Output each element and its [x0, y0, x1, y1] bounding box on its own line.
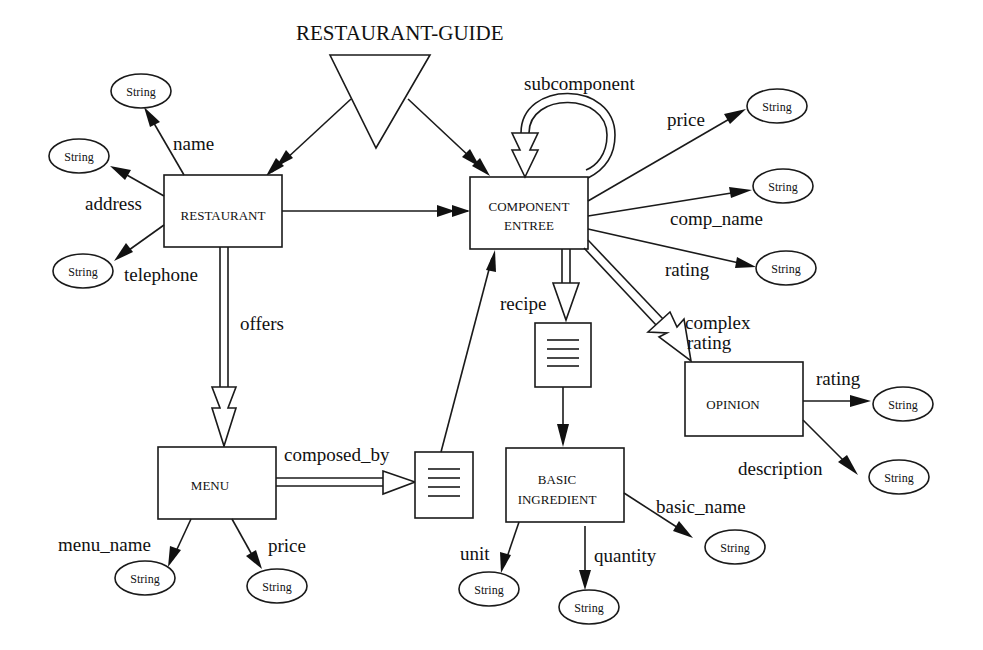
edge-label-comp-name: comp_name: [670, 208, 763, 229]
attr-menu-price-type: String: [262, 580, 291, 594]
entity-component-label-1: COMPONENT: [489, 199, 570, 214]
attr-quantity-type: String: [574, 601, 603, 615]
attr-address-type: String: [64, 150, 93, 164]
edge-label-basic-name: basic_name: [656, 496, 746, 517]
edge-label-name: name: [173, 133, 214, 154]
edge-label-comp-rating: rating: [665, 259, 710, 280]
edge-label-recipe: recipe: [500, 293, 546, 314]
edge-label-complex-2: rating: [687, 332, 732, 353]
edge-label-description: description: [738, 458, 823, 479]
attr-basic-name-type: String: [720, 541, 749, 555]
entity-basic-label-2: INGREDIENT: [518, 492, 597, 507]
attr-menu-name-type: String: [130, 572, 159, 586]
edge-quantity: [579, 526, 591, 590]
edge-label-menu-price: price: [268, 535, 306, 556]
entity-opinion-label: OPINION: [706, 397, 760, 412]
edge-label-quantity: quantity: [594, 545, 657, 566]
edge-label-menu-name: menu_name: [58, 534, 151, 555]
attr-description-type: String: [884, 471, 913, 485]
edge-composed-by: [276, 471, 415, 494]
edge-label-composed-by: composed_by: [284, 444, 390, 465]
edge-telephone: [114, 225, 164, 261]
list-icon-recipe[interactable]: [535, 323, 591, 387]
restaurant-guide-diagram: RESTAURANT-GUIDE RESTAURANT String name …: [0, 0, 983, 650]
entity-restaurant-label: RESTAURANT: [181, 208, 266, 223]
edge-menu-name: [168, 519, 191, 567]
edge-menu-price: [232, 519, 262, 569]
edge-label-comp-price: price: [667, 109, 705, 130]
edge-root-restaurant: [266, 99, 351, 176]
entity-menu-label: MENU: [191, 478, 230, 493]
edge-opinion-rating: [803, 395, 871, 407]
root-triangle: [330, 55, 430, 148]
edge-label-offers: offers: [240, 313, 284, 334]
edge-root-component: [408, 99, 490, 176]
edge-label-complex-1: complex: [685, 312, 751, 333]
edge-recipe-ingredient: [557, 387, 569, 447]
edge-label-unit: unit: [460, 543, 490, 564]
edge-address: [110, 166, 164, 196]
attr-name-type: String: [126, 85, 155, 99]
edge-label-opinion-rating: rating: [816, 368, 861, 389]
attr-opinion-rating-type: String: [888, 398, 917, 412]
edge-restaurant-component: [282, 205, 470, 217]
edge-subcomponent: [512, 93, 615, 178]
attr-telephone-type: String: [68, 265, 97, 279]
edge-label-telephone: telephone: [124, 264, 198, 285]
diagram-title: RESTAURANT-GUIDE: [296, 21, 504, 45]
edge-label-address: address: [85, 193, 142, 214]
attr-unit-type: String: [474, 583, 503, 597]
attr-comp-name-type: String: [768, 180, 797, 194]
edge-label-subcomponent: subcomponent: [524, 73, 636, 94]
attr-comp-rating-type: String: [771, 262, 800, 276]
list-icon-composed-by[interactable]: [415, 452, 473, 518]
edge-offers: [212, 247, 236, 446]
edge-unit: [500, 522, 519, 573]
entity-component-label-2: ENTREE: [504, 218, 554, 233]
attr-comp-price-type: String: [762, 100, 791, 114]
edge-list-component: [441, 250, 496, 452]
entity-basic-label-1: BASIC: [538, 472, 576, 487]
edge-recipe: [553, 249, 579, 320]
